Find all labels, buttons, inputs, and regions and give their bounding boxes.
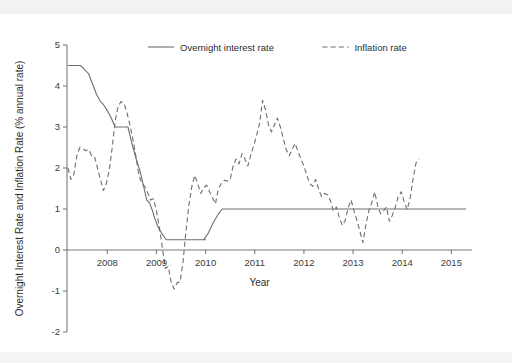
y-axis-tick-label: -2 [52, 326, 60, 337]
series-line-2 [68, 100, 419, 289]
x-axis-tick-label: 2011 [245, 257, 265, 268]
series-group [68, 66, 466, 289]
y-axis-tick-label: 5 [55, 39, 60, 50]
x-axis-tick-label: 2009 [146, 257, 167, 268]
legend-label-1: Overnight interest rate [180, 42, 274, 53]
y-axis-title: Overnight Interest Rate and Inflation Ra… [14, 61, 25, 317]
series-line-1 [68, 66, 466, 240]
x-axis-tick-label: 2014 [392, 257, 413, 268]
y-axis-tick-label: -1 [52, 285, 60, 296]
legend-label-2: Inflation rate [354, 42, 406, 53]
y-axis-tick-label: 1 [55, 203, 60, 214]
axis-labels-group: -2-1012345200820092010201120122013201420… [14, 39, 462, 337]
line-chart: -2-1012345200820092010201120122013201420… [0, 14, 512, 352]
legend-group: Overnight interest rateInflation rate [148, 42, 407, 53]
chart-figure: -2-1012345200820092010201120122013201420… [0, 14, 512, 352]
x-axis-tick-label: 2013 [342, 257, 363, 268]
x-axis-title: Year [249, 277, 270, 288]
bottom-background-strip [0, 352, 512, 363]
axes-group [63, 45, 472, 332]
top-background-strip [0, 0, 512, 14]
y-axis-tick-label: 3 [55, 121, 60, 132]
x-axis-tick-label: 2012 [293, 257, 314, 268]
y-axis-tick-label: 0 [55, 244, 60, 255]
x-axis-tick-label: 2008 [97, 257, 118, 268]
x-axis-tick-label: 2015 [441, 257, 462, 268]
y-axis-tick-label: 4 [55, 80, 60, 91]
x-axis-tick-label: 2010 [195, 257, 216, 268]
y-axis-tick-label: 2 [55, 162, 60, 173]
